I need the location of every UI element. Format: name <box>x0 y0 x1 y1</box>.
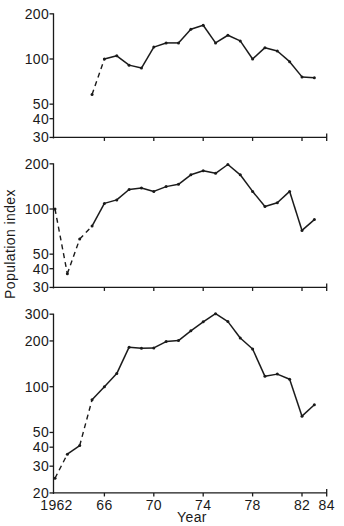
series-segment <box>216 165 228 174</box>
data-point-marker <box>165 340 168 343</box>
data-point-marker <box>263 46 266 49</box>
data-point-marker <box>128 64 131 67</box>
series-segment <box>228 165 240 175</box>
series-segment <box>179 29 191 43</box>
data-point-marker <box>54 208 57 211</box>
data-point-marker <box>251 58 254 61</box>
data-point-marker <box>54 477 57 480</box>
series-segment <box>191 25 203 29</box>
series-segment <box>154 187 166 192</box>
x-tick-label: 70 <box>146 497 162 513</box>
data-point-marker <box>313 403 316 406</box>
data-point-marker <box>152 46 155 49</box>
data-point-marker <box>115 372 118 375</box>
y-tick-label: 30 <box>33 458 49 474</box>
data-point-marker <box>189 329 192 332</box>
series-segment <box>290 191 302 230</box>
x-axis-title: Year <box>177 509 207 525</box>
data-point-marker <box>103 385 106 388</box>
series-segment-dashed <box>80 226 92 239</box>
data-point-marker <box>78 444 81 447</box>
data-point-marker <box>202 24 205 27</box>
series-segment-dashed <box>67 239 79 274</box>
series-segment <box>129 347 141 348</box>
x-tick-label: 84 <box>319 497 335 513</box>
series-segment-dashed <box>55 454 67 478</box>
series-segment <box>154 43 166 47</box>
data-point-marker <box>140 187 143 190</box>
data-point-marker <box>202 320 205 323</box>
data-point-marker <box>276 373 279 376</box>
series-segment <box>129 188 141 189</box>
data-point-marker <box>66 272 69 275</box>
y-tick-label: 40 <box>33 111 49 127</box>
data-point-marker <box>288 190 291 193</box>
data-point-marker <box>276 50 279 53</box>
data-point-marker <box>103 202 106 205</box>
data-point-marker <box>226 320 229 323</box>
panel-top: 304050100200 <box>25 6 327 146</box>
data-point-marker <box>276 201 279 204</box>
data-point-marker <box>239 337 242 340</box>
series-segment <box>203 171 215 174</box>
series-segment <box>117 347 129 373</box>
y-tick-label: 50 <box>33 96 49 112</box>
series-segment <box>265 203 277 207</box>
series-segment <box>265 374 277 376</box>
data-point-marker <box>226 34 229 37</box>
series-segment <box>104 200 116 203</box>
y-axis-title: Population index <box>2 189 18 299</box>
data-point-marker <box>177 339 180 342</box>
data-point-marker <box>128 346 131 349</box>
series-segment <box>290 379 302 416</box>
y-tick-label: 100 <box>25 379 49 395</box>
y-tick-label: 50 <box>33 246 49 262</box>
y-tick-label: 200 <box>25 156 49 172</box>
y-tick-label: 30 <box>33 279 49 295</box>
x-tick-label: 1962 <box>40 497 72 513</box>
series-segment <box>117 189 129 199</box>
data-point-marker <box>91 398 94 401</box>
series-segment <box>141 188 153 191</box>
series-segment <box>228 322 240 338</box>
data-point-marker <box>226 163 229 166</box>
y-tick-label: 300 <box>25 306 49 322</box>
series-segment <box>92 387 104 400</box>
y-tick-label: 200 <box>25 6 49 22</box>
series-segment <box>302 405 314 416</box>
y-tick-label: 30 <box>33 129 49 145</box>
x-tick-label: 82 <box>294 497 310 513</box>
data-point-marker <box>301 75 304 78</box>
series-segment <box>179 331 191 341</box>
data-point-marker <box>301 415 304 418</box>
series-segment <box>253 191 265 206</box>
data-point-marker <box>263 205 266 208</box>
series-segment <box>240 175 252 192</box>
data-point-marker <box>140 67 143 70</box>
series-segment <box>154 342 166 348</box>
data-point-marker <box>189 28 192 31</box>
data-point-marker <box>177 41 180 44</box>
panel-bottom: 203040501002003001962667074788284 <box>25 306 335 513</box>
series-segment <box>228 35 240 41</box>
data-point-marker <box>313 76 316 79</box>
series-segment-dashed <box>80 400 92 446</box>
series-segment <box>191 322 203 331</box>
data-point-marker <box>239 173 242 176</box>
panel-middle: 304050100200 <box>25 156 327 296</box>
data-point-marker <box>214 312 217 315</box>
data-point-marker <box>177 183 180 186</box>
data-point-marker <box>78 238 81 241</box>
series-segment <box>240 41 252 59</box>
data-point-marker <box>91 225 94 228</box>
data-point-marker <box>152 190 155 193</box>
data-point-marker <box>263 375 266 378</box>
data-point-marker <box>103 58 106 61</box>
data-point-marker <box>115 198 118 201</box>
series-segment <box>67 446 79 455</box>
series-segment <box>203 314 215 322</box>
series-segment-dashed <box>92 59 104 94</box>
series-segment <box>302 220 314 231</box>
series-segment <box>104 374 116 387</box>
series-segment <box>179 175 191 185</box>
